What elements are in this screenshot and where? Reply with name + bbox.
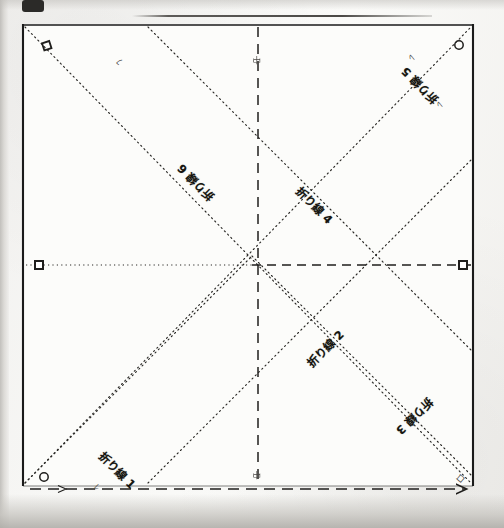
tick-center-bottom: 中 xyxy=(252,470,261,482)
tick-center-top: 中 xyxy=(252,55,261,67)
fold-diagram-plate xyxy=(0,0,504,528)
marker-mid-right xyxy=(459,261,467,269)
marker-mid-left xyxy=(35,261,43,269)
